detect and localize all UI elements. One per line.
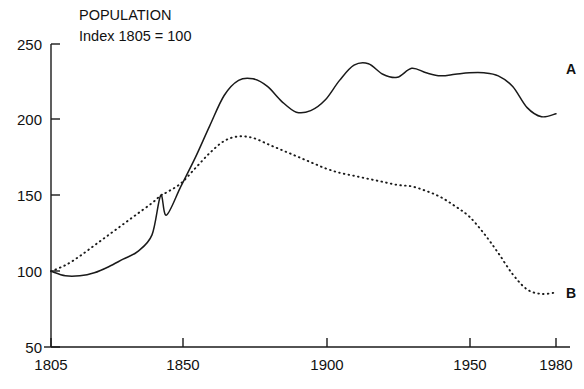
y-axis: 250 200 150 100 50 — [17, 36, 60, 356]
series-b-line — [51, 136, 556, 294]
plot-area — [51, 63, 556, 294]
x-axis-label-1980: 1980 — [539, 356, 572, 373]
y-axis-label-150: 150 — [17, 187, 42, 204]
series-label-b: B — [566, 285, 576, 301]
chart-canvas: POPULATION Index 1805 = 100 250 200 150 … — [0, 0, 584, 389]
x-axis-label-1900: 1900 — [310, 356, 343, 373]
series-label-a: A — [566, 61, 576, 77]
x-axis-label-1850: 1850 — [166, 356, 199, 373]
chart-title-block: POPULATION Index 1805 = 100 — [79, 7, 191, 44]
chart-title: POPULATION — [79, 7, 171, 23]
series-labels: A B — [566, 61, 576, 301]
y-axis-label-100: 100 — [17, 263, 42, 280]
chart-subtitle: Index 1805 = 100 — [79, 28, 191, 44]
y-axis-label-250: 250 — [17, 36, 42, 53]
x-axis-label-1805: 1805 — [34, 356, 67, 373]
y-axis-label-200: 200 — [17, 111, 42, 128]
x-axis-label-1950: 1950 — [453, 356, 486, 373]
population-index-chart: POPULATION Index 1805 = 100 250 200 150 … — [0, 0, 584, 389]
series-a-line — [51, 63, 556, 277]
x-axis: 1805 1850 1900 1950 1980 — [34, 338, 572, 373]
y-axis-label-50: 50 — [25, 339, 42, 356]
